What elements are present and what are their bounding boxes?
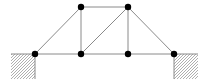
hatch-pattern <box>144 54 208 79</box>
joint-E <box>78 4 84 10</box>
hatch-pattern <box>0 54 63 79</box>
support-left <box>0 54 63 79</box>
joint-D <box>171 51 177 57</box>
member-BF <box>81 7 128 54</box>
truss-diagram <box>0 0 208 83</box>
member-FD <box>128 7 174 54</box>
joint-A <box>32 51 38 57</box>
supports <box>0 54 208 79</box>
members <box>35 7 174 54</box>
joint-F <box>125 4 131 10</box>
support-right <box>144 54 208 79</box>
member-AE <box>35 7 81 54</box>
joint-C <box>125 51 131 57</box>
joint-B <box>78 51 84 57</box>
